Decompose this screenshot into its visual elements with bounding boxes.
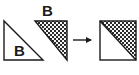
left-shape-group: B <box>4 21 43 60</box>
result-shape-group <box>100 21 136 60</box>
diagram-canvas: B B <box>0 0 139 75</box>
middle-triangle-shape <box>35 21 67 60</box>
left-triangle-label: B <box>14 42 25 59</box>
middle-triangle-label: B <box>42 2 53 19</box>
shape-transformation-diagram: B B <box>0 0 139 75</box>
middle-shape-group: B <box>35 2 67 60</box>
